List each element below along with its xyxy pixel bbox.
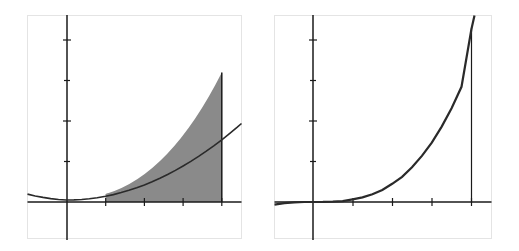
figure-overlay [0,0,519,251]
